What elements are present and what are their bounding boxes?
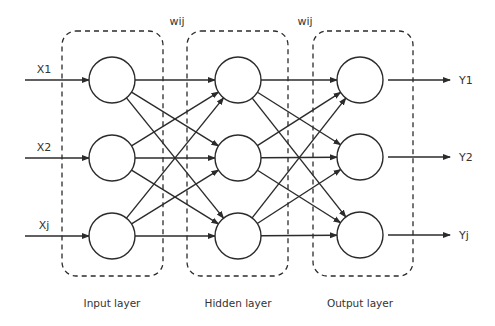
neuron-node (337, 134, 383, 180)
neuron-node (215, 135, 261, 181)
layer-label: Input layer (84, 297, 142, 309)
neural-network-diagram: Input layerHidden layerOutput layerX1X2X… (0, 0, 495, 326)
weight-label: wij (169, 15, 184, 28)
output-label: Y2 (458, 151, 473, 164)
input-label: X2 (37, 141, 52, 154)
neuron-node (337, 57, 383, 103)
neuron-node (215, 57, 261, 103)
neuron-node (215, 213, 261, 259)
weight-label: wij (297, 15, 312, 28)
layer-label: Hidden layer (205, 297, 273, 309)
layer-label: Output layer (327, 297, 394, 309)
input-label: X1 (37, 63, 52, 76)
neuron-node (89, 213, 135, 259)
output-label: Y1 (458, 74, 473, 87)
neuron-node (89, 135, 135, 181)
output-label: Yj (458, 229, 469, 242)
input-label: Xj (39, 219, 50, 232)
neuron-node (89, 57, 135, 103)
neuron-node (337, 212, 383, 258)
connection-edge (261, 235, 337, 236)
